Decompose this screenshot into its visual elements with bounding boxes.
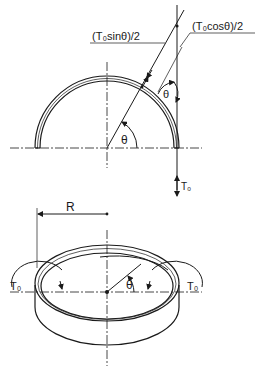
force-label: T₀: [181, 181, 191, 192]
center-angle-label: θ: [121, 133, 128, 147]
left-torque-label: T₀: [10, 280, 21, 292]
ring-torsion-diagram: θ θ (T₀sinθ)/2 (T₀cosθ)/2 T₀ R θ T₀ T₀: [0, 0, 263, 366]
sin-component-label: (T₀sinθ)/2: [92, 30, 140, 42]
tangent-parallel-line: [158, 47, 182, 92]
radius-label: R: [66, 200, 75, 214]
bottom-angle-label: θ: [126, 278, 133, 292]
bottom-radial-line: [107, 264, 141, 292]
cos-component-label: (T₀cosθ)/2: [192, 20, 243, 32]
force-point: [175, 24, 178, 27]
right-torque-label: T₀: [187, 280, 198, 292]
tangent-angle-label: θ: [163, 88, 169, 100]
